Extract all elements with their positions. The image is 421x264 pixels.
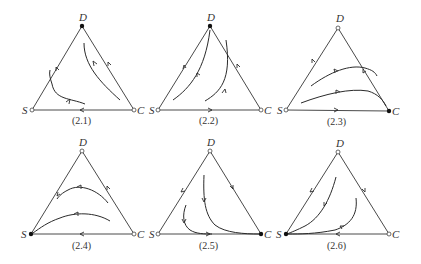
unstable-vertex-marker [284,108,288,112]
vertex-label-c: C [392,228,400,240]
stable-vertex-marker [387,109,391,113]
stable-vertex-marker [259,232,263,236]
stable-vertex-marker [284,232,288,236]
panel-caption: (2.4) [72,240,91,252]
trajectory [301,90,386,106]
trajectory [287,177,336,234]
arrow-icon [107,186,110,190]
vertex-label-s: S [149,228,155,240]
trajectory [57,187,108,203]
stable-vertex-marker [29,232,33,236]
unstable-vertex-marker [387,232,391,236]
arrow-icon [181,188,185,192]
vertex-label-s: S [21,228,27,240]
arrow-icon [197,73,200,77]
panel-caption: (2.2) [199,115,218,127]
unstable-vertex-marker [80,149,84,153]
panel-caption: (2.5) [199,240,218,252]
simplex-triangle [286,152,389,234]
unstable-vertex-marker [132,108,136,112]
arrow-icon [222,89,226,93]
vertex-label-s: S [276,228,282,240]
vertex-label-c: C [392,105,400,117]
trajectory [288,198,356,234]
vertex-label-s: S [277,104,283,116]
simplex-triangle [158,26,261,110]
vertex-label-d: D [206,11,215,23]
unstable-vertex-marker [259,108,263,112]
stable-vertex-marker [208,24,212,28]
vertex-label-d: D [335,137,344,149]
arrow-icon [312,59,315,63]
vertex-label-s: S [22,104,28,116]
trajectory [204,175,259,234]
arrow-icon [237,64,240,68]
vertex-label-d: D [206,136,215,148]
vertex-label-d: D [78,11,87,23]
arrow-icon [66,99,70,104]
vertex-label-d: D [78,136,87,148]
vertex-label-c: C [264,228,272,240]
trajectory [84,43,120,100]
vertex-label-c: C [137,104,145,116]
arrow-icon [93,61,97,66]
panel-2-3: D S C (2.3) [277,12,400,128]
vertex-label-c: C [137,228,145,240]
vertex-label-s: S [149,104,155,116]
trajectory [33,214,110,233]
simplex-triangle [31,151,134,234]
unstable-vertex-marker [336,150,340,154]
stable-vertex-marker [80,24,84,28]
unstable-vertex-marker [132,232,136,236]
panel-caption: (2.1) [72,115,91,127]
simplex-triangle [286,28,389,111]
unstable-vertex-marker [30,108,34,112]
simplex-triangle [158,151,261,234]
panel-2-5: D S C (2.5) [149,136,272,252]
trajectory [173,30,210,100]
trajectory [184,205,212,234]
trajectory [50,70,85,104]
vertex-label-c: C [264,104,272,116]
unstable-vertex-marker [208,149,212,153]
unstable-vertex-marker [156,232,160,236]
vertex-label-d: D [335,12,344,24]
arrow-icon [108,62,111,66]
panel-caption: (2.3) [327,116,346,128]
panel-2-4: D S C (2.4) [21,136,145,252]
panel-2-2: D S C (2.2) [149,11,272,127]
trajectory [311,67,377,86]
simplex-triangle [32,26,134,110]
unstable-vertex-marker [336,26,340,30]
panel-caption: (2.6) [327,240,346,252]
panel-2-6: D S C (2.6) [276,137,400,252]
panel-2-1: D S C (2.1) [22,11,145,127]
simplex-phase-diagrams: D S C (2.1) D S C (2.2) D S C [0,0,421,264]
unstable-vertex-marker [156,108,160,112]
